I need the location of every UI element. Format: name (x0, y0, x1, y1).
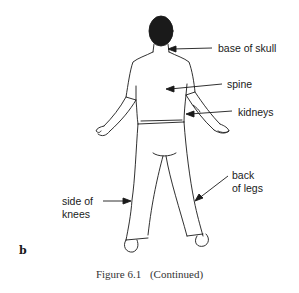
label-back-of-legs-line2: of legs (232, 182, 263, 194)
caption-number: Figure 6.1 (96, 268, 141, 280)
caption-text: (Continued) (150, 268, 203, 280)
head-icon (149, 16, 173, 46)
label-kidneys: kidneys (238, 106, 274, 118)
label-side-of-knees-line1: side of (62, 195, 93, 207)
label-spine: spine (227, 78, 252, 90)
panel-label: b (19, 244, 27, 257)
label-base-of-skull: base of skull (218, 42, 276, 54)
label-back-of-legs-line1: back (232, 169, 254, 181)
figure-caption: Figure 6.1 (Continued) (0, 268, 299, 280)
label-side-of-knees-line2: knees (62, 208, 90, 220)
